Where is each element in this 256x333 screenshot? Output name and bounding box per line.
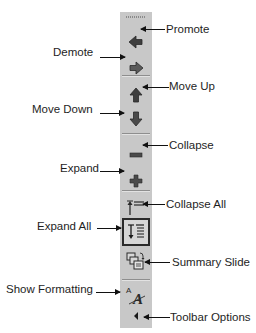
- move-down-label: Move Down: [32, 102, 93, 116]
- minus-icon: [129, 151, 143, 159]
- left-arrow-icon: [128, 35, 144, 49]
- summary-slide-callout-arrow: [145, 262, 170, 263]
- show-formatting-icon: A A: [125, 284, 147, 306]
- move-up-callout-arrow: [143, 87, 169, 88]
- collapse-label: Collapse: [169, 138, 214, 152]
- down-arrow-icon: [129, 111, 143, 127]
- toolbar-separator: [122, 133, 150, 135]
- show-formatting-button[interactable]: A A: [124, 283, 148, 307]
- up-arrow-icon: [129, 87, 143, 103]
- toolbar-separator: [122, 190, 150, 192]
- right-arrow-icon: [128, 61, 144, 75]
- svg-text:A: A: [132, 291, 143, 306]
- toolbar-separator: [122, 279, 150, 281]
- svg-text:A: A: [126, 286, 132, 295]
- expand-all-label: Expand All: [37, 219, 91, 233]
- promote-button[interactable]: [124, 30, 148, 54]
- toolbar-options-icon: [133, 312, 139, 320]
- toolbar-grip-handle[interactable]: [126, 16, 146, 18]
- promote-label: Promote: [166, 22, 209, 36]
- plus-icon: [129, 174, 143, 188]
- collapse-all-label: Collapse All: [166, 197, 226, 211]
- collapse-callout-arrow: [143, 145, 168, 146]
- expand-callout-arrow: [100, 171, 124, 172]
- move-down-callout-arrow: [100, 113, 124, 114]
- toolbar-options-label: Toolbar Options: [170, 310, 251, 324]
- toolbar-separator: [122, 75, 150, 77]
- collapse-all-button[interactable]: [124, 196, 148, 220]
- collapse-all-callout-arrow: [143, 204, 165, 205]
- move-up-label: Move Up: [169, 79, 215, 93]
- demote-label: Demote: [53, 45, 93, 59]
- expand-all-icon: [126, 223, 146, 241]
- expand-all-callout-arrow: [97, 228, 121, 229]
- summary-slide-icon: [126, 251, 146, 271]
- move-down-button[interactable]: [124, 107, 148, 131]
- promote-callout-arrow: [141, 29, 165, 30]
- expand-label: Expand: [60, 161, 99, 175]
- show-formatting-callout-arrow: [96, 292, 120, 293]
- toolbar-options-callout-arrow: [144, 317, 170, 318]
- show-formatting-label: Show Formatting: [6, 282, 93, 296]
- demote-callout-arrow: [100, 57, 125, 58]
- expand-all-button[interactable]: [122, 218, 150, 246]
- summary-slide-label: Summary Slide: [172, 255, 250, 269]
